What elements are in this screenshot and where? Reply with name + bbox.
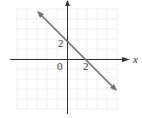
x-axis-label: x — [132, 53, 138, 65]
x-axis-arrow-icon — [122, 57, 130, 62]
x-axis — [10, 57, 130, 62]
x-tick-label: 2 — [83, 60, 89, 72]
y-axis — [65, 0, 70, 114]
y-axis-arrow-icon — [65, 0, 70, 6]
coordinate-graph: x 0 2 2 — [0, 0, 142, 118]
origin-label: 0 — [57, 60, 63, 72]
y-tick-label: 2 — [58, 37, 64, 49]
